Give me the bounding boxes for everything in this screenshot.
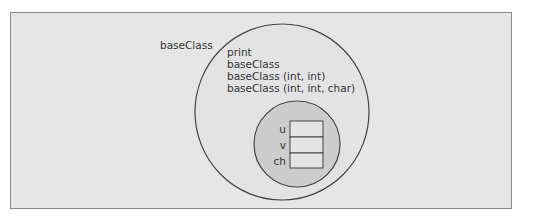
field-label-u: u xyxy=(266,123,286,135)
fields-table xyxy=(290,121,323,168)
method-item: print xyxy=(227,46,355,58)
method-item: baseClass xyxy=(227,58,355,70)
methods-list: print baseClass baseClass (int, int) bas… xyxy=(227,46,355,94)
class-diagram-graphic xyxy=(0,0,534,224)
field-label-ch: ch xyxy=(266,155,286,167)
method-item: baseClass (int, int, char) xyxy=(227,82,355,94)
field-label-v: v xyxy=(266,139,286,151)
method-item: baseClass (int, int) xyxy=(227,70,355,82)
class-name-label: baseClass xyxy=(160,39,213,51)
